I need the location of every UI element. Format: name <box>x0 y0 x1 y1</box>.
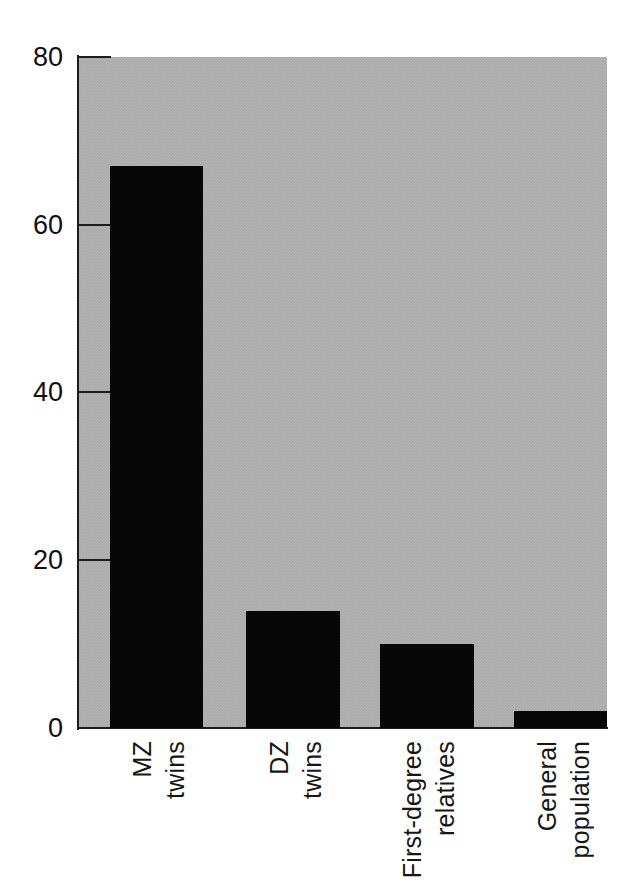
y-tick-80 <box>79 56 111 58</box>
y-tick-40 <box>79 391 111 393</box>
y-tick-60 <box>79 224 111 226</box>
x-label-line-1: MZ <box>130 741 155 778</box>
x-label-first-degree-relatives: First-degree relatives <box>400 741 466 891</box>
y-tick-label-80: 80 <box>0 44 63 71</box>
x-label-line-2: relatives <box>433 741 458 836</box>
x-label-line-1: DZ <box>267 741 292 775</box>
y-tick-label-40: 40 <box>0 379 63 406</box>
y-tick-label-20: 20 <box>0 547 63 574</box>
x-label-line-2: twins <box>163 741 188 799</box>
x-label-line-1: General <box>535 741 560 831</box>
bar-mz-twins <box>110 166 203 728</box>
x-label-general-population: General population <box>535 741 601 891</box>
x-label-line-1: First-degree <box>400 741 425 878</box>
bar-general-population <box>514 711 607 728</box>
y-tick-0 <box>79 727 111 729</box>
x-label-mz-twins: MZ twins <box>130 741 196 891</box>
bar-first-degree-relatives <box>380 644 474 728</box>
x-label-line-2: population <box>568 741 593 858</box>
bar-chart-figure: 80 60 40 20 0 MZ twins DZ twins First-de… <box>0 0 636 896</box>
bar-dz-twins <box>246 611 340 728</box>
y-tick-20 <box>79 559 111 561</box>
x-label-dz-twins: DZ twins <box>267 741 333 891</box>
y-tick-label-0: 0 <box>0 715 63 742</box>
x-label-line-2: twins <box>300 741 325 799</box>
y-tick-label-60: 60 <box>0 212 63 239</box>
